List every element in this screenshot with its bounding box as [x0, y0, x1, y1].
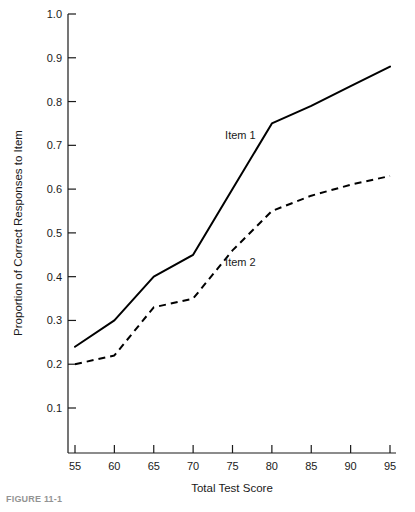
y-tick-label: 0.6: [47, 183, 62, 195]
y-tick-label: 0.9: [47, 52, 62, 64]
y-tick-label: 0.5: [47, 227, 62, 239]
x-tick-label: 70: [187, 460, 199, 472]
x-tick-label: 85: [305, 460, 317, 472]
x-tick-label: 95: [384, 460, 396, 472]
x-tick-label: 80: [266, 460, 278, 472]
y-tick-label: 0.2: [47, 358, 62, 370]
x-tick-label: 90: [345, 460, 357, 472]
y-axis-title: Proportion of Correct Responses to Item: [12, 130, 24, 336]
y-tick-label: 0.7: [47, 139, 62, 151]
y-axis-ticks: 0.10.20.30.40.50.60.70.80.91.0: [47, 8, 76, 414]
y-tick-label: 0.1: [47, 402, 62, 414]
series-annotations: Item 1Item 2: [225, 129, 256, 268]
y-tick-label: 0.3: [47, 314, 62, 326]
y-tick-label: 0.8: [47, 96, 62, 108]
y-tick-label: 1.0: [47, 8, 62, 20]
x-tick-label: 75: [226, 460, 238, 472]
x-tick-label: 60: [108, 460, 120, 472]
y-tick-label: 0.4: [47, 271, 62, 283]
series-line-item-2: [75, 176, 390, 364]
series-line-item-1: [75, 67, 390, 347]
figure-container: 0.10.20.30.40.50.60.70.80.91.0 556065707…: [0, 0, 415, 512]
line-chart: 0.10.20.30.40.50.60.70.80.91.0 556065707…: [0, 0, 415, 512]
x-axis-ticks: 556065707580859095: [69, 445, 396, 472]
x-axis-title: Total Test Score: [191, 482, 273, 494]
series-annotation-label: Item 1: [225, 129, 256, 141]
x-tick-label: 55: [69, 460, 81, 472]
series-annotation-label: Item 2: [225, 256, 256, 268]
x-tick-label: 65: [148, 460, 160, 472]
figure-caption: FIGURE 11-1: [6, 494, 406, 506]
